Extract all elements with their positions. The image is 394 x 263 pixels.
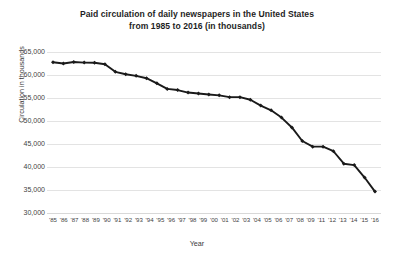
data-line [53, 62, 375, 192]
data-point-marker [228, 95, 232, 99]
x-tick-label: '99 [199, 216, 207, 223]
x-tick-label: '91 [113, 216, 121, 223]
y-tick-label: 45,000 [1, 140, 45, 147]
data-point-marker [238, 95, 242, 99]
y-axis-tick-labels: 65,00060,00055,00050,00045,00040,00035,0… [0, 52, 45, 213]
y-tick-label: 35,000 [1, 186, 45, 193]
x-tick-label: '12 [328, 216, 336, 223]
x-axis-baseline [47, 213, 381, 214]
x-tick-label: '07 [285, 216, 293, 223]
x-axis-label: Year [0, 239, 394, 248]
data-point-marker [134, 74, 138, 78]
chart-title-line-2: from 1985 to 2016 (in thousands) [0, 20, 394, 32]
x-tick-label: '04 [253, 216, 261, 223]
data-point-marker [217, 93, 221, 97]
data-point-marker [186, 91, 190, 95]
data-point-marker [82, 61, 86, 65]
x-tick-label: '14 [350, 216, 358, 223]
x-tick-label: '86 [60, 216, 68, 223]
x-tick-label: '92 [124, 216, 132, 223]
y-tick-label: 30,000 [1, 209, 45, 216]
x-tick-label: '16 [371, 216, 379, 223]
x-axis-tick-labels: '85'86'87'88'89'90'91'92'93'94'95'96'97'… [47, 216, 381, 230]
chart-title-line-1: Paid circulation of daily newspapers in … [0, 8, 394, 20]
plot-area [47, 52, 381, 213]
x-tick-label: '15 [360, 216, 368, 223]
y-tick-label: 60,000 [1, 71, 45, 78]
x-tick-label: '95 [156, 216, 164, 223]
x-tick-label: '88 [81, 216, 89, 223]
x-tick-label: '97 [178, 216, 186, 223]
y-tick-label: 40,000 [1, 163, 45, 170]
data-point-marker [124, 72, 128, 76]
y-tick-label: 55,000 [1, 94, 45, 101]
data-point-marker [207, 92, 211, 96]
x-tick-label: '03 [242, 216, 250, 223]
y-tick-label: 65,000 [1, 48, 45, 55]
x-tick-label: '13 [339, 216, 347, 223]
x-tick-label: '96 [167, 216, 175, 223]
data-point-marker [196, 91, 200, 95]
x-tick-label: '08 [296, 216, 304, 223]
data-point-marker [93, 61, 97, 65]
x-tick-label: '94 [146, 216, 154, 223]
y-tick-label: 50,000 [1, 117, 45, 124]
data-point-marker [72, 60, 76, 64]
data-point-marker [51, 60, 55, 64]
line-chart: Paid circulation of daily newspapers in … [0, 0, 394, 263]
x-tick-label: '93 [135, 216, 143, 223]
x-tick-label: '90 [103, 216, 111, 223]
x-tick-label: '01 [221, 216, 229, 223]
x-tick-label: '87 [70, 216, 78, 223]
x-tick-label: '85 [49, 216, 57, 223]
x-tick-label: '89 [92, 216, 100, 223]
x-tick-label: '06 [274, 216, 282, 223]
x-tick-label: '05 [264, 216, 272, 223]
chart-title: Paid circulation of daily newspapers in … [0, 8, 394, 32]
x-tick-label: '02 [231, 216, 239, 223]
data-series [47, 52, 381, 213]
data-point-marker [176, 88, 180, 92]
x-tick-label: '11 [318, 216, 326, 223]
x-tick-label: '09 [307, 216, 315, 223]
x-tick-label: '98 [189, 216, 197, 223]
data-point-marker [61, 61, 65, 65]
x-tick-label: '00 [210, 216, 218, 223]
